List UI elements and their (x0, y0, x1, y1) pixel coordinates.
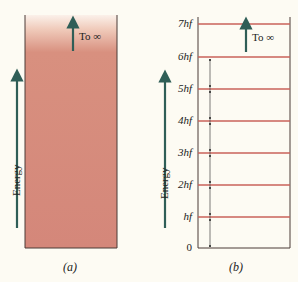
panel-a-energy-label: Energy (11, 164, 22, 196)
level-label-0: 0 (162, 242, 192, 253)
level-label-7hf: 7hf (162, 18, 192, 29)
panel-b-to-infinity-label: To ∞ (252, 32, 274, 43)
panel-b-caption: (b) (229, 262, 243, 273)
level-label-hf: hf (162, 211, 192, 222)
panel-a-caption: (a) (63, 262, 77, 273)
level-label-6hf: 6hf (162, 51, 192, 62)
energy-levels (198, 24, 290, 217)
level-label-2hf: 2hf (162, 179, 192, 190)
level-label-4hf: 4hf (162, 115, 192, 126)
level-label-5hf: 5hf (162, 83, 192, 94)
level-label-3hf: 3hf (162, 147, 192, 158)
continuum-band (25, 15, 117, 248)
panel-a (17, 15, 117, 248)
panel-a-to-infinity-label: To ∞ (79, 31, 101, 42)
